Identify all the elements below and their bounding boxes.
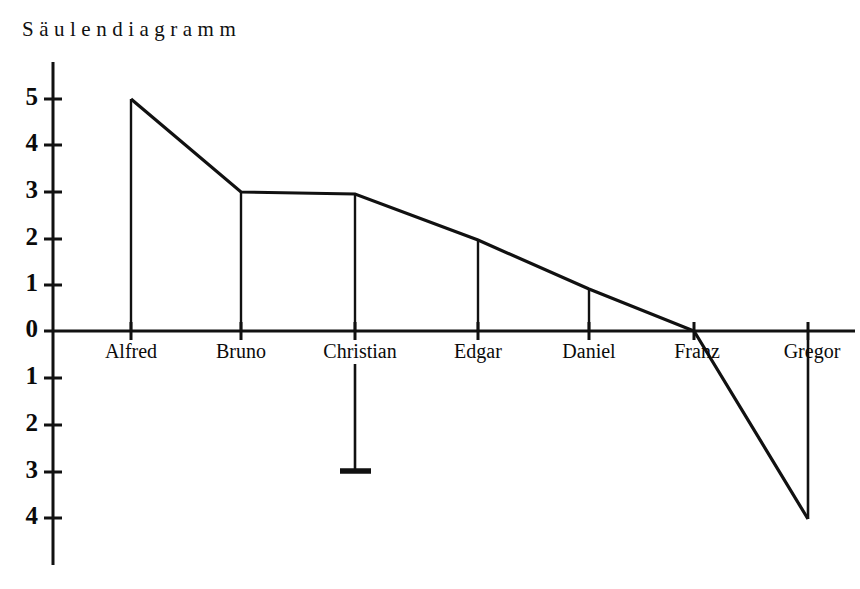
bar-chart-figure: 5 4 3 2 1 0 1 2 3 4 [0, 0, 860, 589]
y-tick-label-4: 4 [26, 129, 39, 156]
x-label-christian: Christian [323, 340, 396, 362]
y-tick-label-2: 2 [26, 223, 39, 250]
y-tick-label-3: 3 [26, 176, 39, 203]
y-tick-label-1: 1 [26, 269, 39, 296]
y-tick-label-neg-2: 2 [26, 409, 39, 436]
x-label-franz: Franz [674, 340, 720, 362]
y-tick-label-neg-3: 3 [26, 456, 39, 483]
x-label-alfred: Alfred [105, 340, 157, 362]
bar-top-envelope [131, 99, 808, 519]
x-label-gregor: Gregor [784, 340, 841, 363]
y-tick-label-neg-1: 1 [26, 362, 39, 389]
chart-page: Säulendiagramm 5 4 3 2 1 0 1 2 [0, 0, 860, 589]
bar-stems-positive [131, 99, 589, 331]
x-label-edgar: Edgar [454, 340, 502, 363]
y-tick-label-neg-4: 4 [26, 502, 39, 529]
y-tick-label-5: 5 [26, 83, 39, 110]
x-label-daniel: Daniel [562, 340, 616, 362]
y-tick-label-0: 0 [26, 315, 39, 342]
x-label-bruno: Bruno [216, 340, 266, 362]
